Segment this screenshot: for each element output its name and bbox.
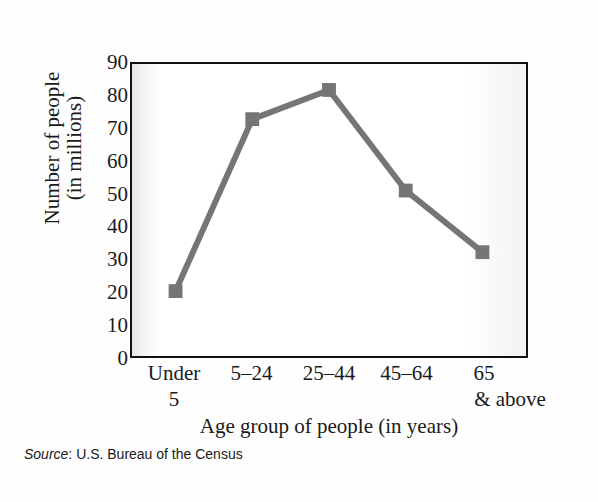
data-point-marker <box>399 184 413 198</box>
y-axis-title-line-1: Number of people <box>41 72 63 225</box>
source-note: Source: U.S. Bureau of the Census <box>24 446 243 462</box>
y-tick-label: 0 <box>118 346 129 371</box>
x-tick-label-line-1: 65 <box>448 360 520 386</box>
data-point-marker <box>245 112 259 126</box>
data-series-line <box>132 64 526 356</box>
series-polyline <box>176 90 483 291</box>
x-tick-label-line-1: 5–24 <box>231 360 273 386</box>
x-tick-label: 25–44 <box>303 360 356 386</box>
x-tick-label: 65& above <box>448 360 520 413</box>
x-tick-label-line-2: & above <box>474 386 546 412</box>
y-tick-label: 80 <box>107 82 128 107</box>
x-axis-tick-labels: Under55–2425–4445–6465& above <box>130 360 528 416</box>
x-tick-label: Under5 <box>148 360 200 413</box>
data-point-marker <box>476 245 490 259</box>
plot-area <box>130 62 528 358</box>
x-tick-label-line-2: 5 <box>148 386 200 412</box>
source-text: U.S. Bureau of the Census <box>76 446 243 462</box>
y-tick-label: 50 <box>107 181 128 206</box>
data-point-marker <box>322 83 336 97</box>
x-tick-label: 5–24 <box>231 360 273 386</box>
y-axis-tick-labels: 0102030405060708090 <box>92 62 128 358</box>
y-tick-label: 10 <box>107 313 128 338</box>
data-point-marker <box>169 284 183 298</box>
source-label: Source <box>24 446 68 462</box>
x-tick-label: 45–64 <box>380 360 433 386</box>
y-axis-title-line-2: (in millions) <box>63 96 85 200</box>
x-tick-label-line-1: Under <box>148 360 200 386</box>
x-tick-label-line-1: 45–64 <box>380 360 433 386</box>
y-tick-label: 90 <box>107 50 128 75</box>
y-tick-label: 30 <box>107 247 128 272</box>
chart-figure: Number of people (in millions) 010203040… <box>0 0 598 502</box>
x-axis-title: Age group of people (in years) <box>130 414 528 439</box>
y-tick-label: 40 <box>107 214 128 239</box>
x-tick-label-line-1: 25–44 <box>303 360 356 386</box>
y-tick-label: 70 <box>107 115 128 140</box>
y-tick-label: 60 <box>107 148 128 173</box>
y-tick-label: 20 <box>107 280 128 305</box>
source-separator: : <box>68 446 76 462</box>
y-axis-title: Number of people (in millions) <box>35 33 91 263</box>
